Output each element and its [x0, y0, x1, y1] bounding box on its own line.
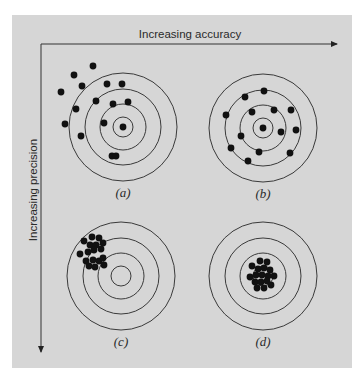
- shot-dot: [278, 129, 285, 136]
- shot-dot: [98, 246, 105, 253]
- shot-dot: [90, 63, 97, 70]
- target-label-a: (a): [115, 185, 130, 200]
- shot-dot: [260, 125, 267, 132]
- target-ring: [111, 266, 131, 286]
- shot-dot: [73, 106, 80, 113]
- shot-dot: [89, 234, 96, 241]
- shot-dot: [261, 88, 268, 95]
- shot-dot: [257, 258, 264, 265]
- shot-dot: [253, 272, 260, 279]
- target-label-c: (c): [114, 334, 128, 349]
- shot-dot: [259, 272, 266, 279]
- shot-dot: [249, 263, 256, 270]
- shot-dot: [92, 264, 99, 271]
- shot-dot: [101, 262, 108, 269]
- shot-dot: [288, 107, 295, 114]
- shot-dot: [119, 81, 126, 88]
- shot-dot: [228, 145, 235, 152]
- shot-dot: [90, 257, 97, 264]
- shot-dot: [256, 149, 263, 156]
- shot-dot: [271, 107, 278, 114]
- shot-dot: [271, 273, 278, 280]
- shot-dot: [101, 120, 108, 127]
- shot-dot: [261, 265, 268, 272]
- shot-dot: [77, 251, 84, 258]
- shot-dot: [71, 72, 78, 79]
- target-label-b: (b): [255, 186, 270, 201]
- shot-dot: [81, 238, 88, 245]
- accuracy-precision-diagram: Increasing accuracy Increasing precision…: [0, 0, 360, 372]
- shot-dot: [79, 83, 86, 90]
- shot-dot: [267, 267, 274, 274]
- shot-dot: [223, 112, 230, 119]
- shot-dot: [242, 94, 249, 101]
- shot-dot: [125, 99, 132, 106]
- shot-dot: [113, 153, 120, 160]
- x-axis-label: Increasing accuracy: [139, 28, 242, 40]
- shot-dot: [249, 109, 256, 116]
- shot-dot: [110, 101, 117, 108]
- shot-dot: [86, 263, 93, 270]
- shot-dot: [100, 240, 107, 247]
- shot-dot: [100, 255, 107, 262]
- shot-dot: [287, 150, 294, 157]
- shot-dot: [85, 249, 92, 256]
- shot-dot: [264, 259, 271, 266]
- target-d: (d): [209, 222, 317, 349]
- target-b: (b): [209, 74, 317, 201]
- shot-dot: [104, 81, 111, 88]
- shot-dot: [78, 133, 85, 140]
- shot-dot: [91, 247, 98, 254]
- shot-dot: [258, 279, 265, 286]
- shot-dot: [261, 285, 268, 292]
- target-a: (a): [58, 63, 177, 200]
- shot-dot: [245, 158, 252, 165]
- shot-dot: [238, 133, 245, 140]
- shot-dot: [62, 121, 69, 128]
- shot-dot: [252, 279, 259, 286]
- shot-dot: [255, 266, 262, 273]
- shot-dot: [58, 89, 65, 96]
- shot-dot: [93, 98, 100, 105]
- shot-dot: [120, 124, 127, 131]
- shot-dot: [293, 127, 300, 134]
- target-c: (c): [67, 222, 175, 349]
- shot-dot: [247, 274, 254, 281]
- target-label-d: (d): [255, 334, 270, 349]
- shot-dot: [254, 285, 261, 292]
- y-axis-label: Increasing precision: [27, 139, 39, 241]
- shot-dot: [268, 282, 275, 289]
